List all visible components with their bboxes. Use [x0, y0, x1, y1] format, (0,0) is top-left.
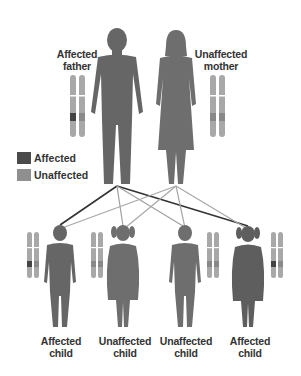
child-3-label-line2: child — [155, 347, 217, 359]
line-father-child1 — [60, 186, 117, 225]
child-2-chromosomes — [91, 232, 103, 278]
child-2-label: Unaffected child — [94, 335, 156, 359]
child-4-figure — [232, 226, 264, 327]
father-label-line2: father — [52, 60, 102, 72]
legend-unaffected-label: Unaffected — [34, 169, 88, 181]
child-1-chromosomes — [27, 232, 39, 278]
legend-item-affected: Affected — [17, 149, 88, 166]
child-1-label-line1: Affected — [33, 335, 89, 347]
child-4-label-line2: child — [222, 347, 278, 359]
legend-item-unaffected: Unaffected — [17, 166, 88, 183]
child-4-chromosomes — [271, 232, 283, 278]
line-mother-child1 — [62, 186, 176, 228]
child-2-label-line2: child — [94, 347, 156, 359]
father-chromosomes — [70, 75, 85, 137]
line-father-child4 — [117, 186, 248, 226]
line-mother-child2 — [125, 186, 176, 228]
mother-label-line2: mother — [190, 60, 252, 72]
child-4-label: Affected child — [222, 335, 278, 359]
father-label: Affected father — [52, 48, 102, 72]
inheritance-lines — [60, 186, 248, 228]
child-3-figure — [169, 225, 201, 327]
legend: Affected Unaffected — [17, 149, 88, 183]
unaffected-swatch-icon — [17, 169, 31, 181]
legend-affected-label: Affected — [34, 152, 76, 164]
line-father-child3 — [117, 186, 183, 226]
inheritance-diagram — [0, 0, 301, 376]
child-3-label-line1: Unaffected — [155, 335, 217, 347]
child-1-label-line2: child — [33, 347, 89, 359]
child-1-figure — [44, 225, 76, 327]
affected-swatch-icon — [17, 152, 31, 164]
child-3-chromosomes — [207, 232, 219, 278]
child-2-figure — [107, 225, 139, 327]
child-1-label: Affected child — [33, 335, 89, 359]
mother-label-line1: Unaffected — [190, 48, 252, 60]
child-2-label-line1: Unaffected — [94, 335, 156, 347]
father-label-line1: Affected — [52, 48, 102, 60]
mother-chromosomes — [210, 75, 225, 137]
child-3-label: Unaffected child — [155, 335, 217, 359]
child-4-label-line1: Affected — [222, 335, 278, 347]
mother-label: Unaffected mother — [190, 48, 252, 72]
